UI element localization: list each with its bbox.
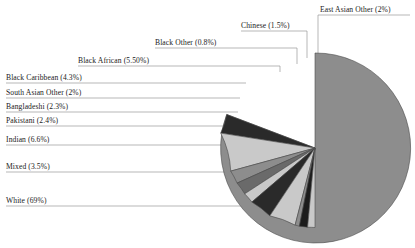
callout-label-black-african: Black African (5.50%): [78, 57, 149, 65]
pie-slices: [221, 53, 411, 243]
callout-label-east-asian-other: East Asian Other (2%): [320, 6, 391, 14]
callout-label-white: White (69%): [6, 197, 47, 205]
callout-label-indian: Indian (6.6%): [6, 136, 49, 144]
callout-label-black-caribbean: Black Caribbean (4.3%): [6, 74, 82, 82]
callout-label-south-asian-other: South Asian Other (2%): [6, 89, 81, 97]
callout-label-mixed: Mixed (3.5%): [6, 163, 50, 171]
callout-label-chinese: Chinese (1.5%): [241, 22, 290, 30]
pie-chart-figure: White (69%) Mixed (3.5%) Indian (6.6%) P…: [0, 0, 415, 248]
callout-label-pakistani: Pakistani (2.4%): [6, 117, 58, 125]
callout-label-black-other: Black Other (0.8%): [155, 39, 216, 47]
callout-label-bangladeshi: Bangladeshi (2.3%): [6, 103, 68, 111]
